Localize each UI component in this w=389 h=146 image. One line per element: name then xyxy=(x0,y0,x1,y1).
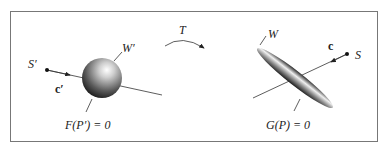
surface-label-left: W′ xyxy=(122,41,135,55)
f-leader xyxy=(86,99,92,112)
source-point-right xyxy=(345,52,349,56)
w-leader xyxy=(260,36,266,45)
ellipsoid-w xyxy=(253,43,337,113)
equation-right: G(P) = 0 xyxy=(266,118,310,132)
transform-arrow: T xyxy=(165,23,204,48)
transformation-diagram: S′ c′ W′ F(P′) = 0 T S c W G(P) = 0 xyxy=(0,0,389,146)
vector-label-left: c′ xyxy=(55,82,64,96)
right-panel: S c W G(P) = 0 xyxy=(253,27,361,132)
vector-label-right: c xyxy=(328,39,334,53)
left-panel: S′ c′ W′ F(P′) = 0 xyxy=(28,41,162,132)
equation-left: F(P′) = 0 xyxy=(64,118,110,132)
vector-c-prime-arrow xyxy=(47,70,70,75)
transform-label: T xyxy=(179,23,187,37)
w-prime-leader xyxy=(114,52,122,61)
source-point-left xyxy=(45,68,49,72)
g-leader xyxy=(294,99,300,111)
source-label-right: S xyxy=(355,48,361,62)
surface-label-right: W xyxy=(268,27,279,41)
source-label-left: S′ xyxy=(28,57,37,71)
sphere-w-prime xyxy=(82,58,122,98)
vector-c-arrow xyxy=(331,54,347,62)
